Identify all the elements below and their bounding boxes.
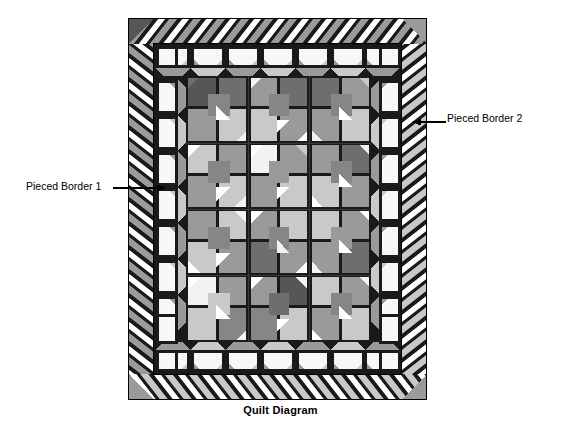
quilt-block [310, 275, 371, 342]
quilt-block [186, 209, 248, 275]
quilt-center-field [186, 76, 371, 342]
quilt-block [186, 275, 248, 342]
quilt-block [249, 275, 309, 342]
quilt-block [310, 143, 371, 209]
quilt-block [249, 143, 309, 209]
quilt-block [186, 76, 248, 143]
annotation-label-pieced-border-2: Pieced Border 2 [447, 112, 522, 124]
quilt-block [249, 209, 309, 275]
quilt-block [249, 76, 309, 143]
quilt-block [310, 76, 371, 143]
figure-caption: Quilt Diagram [0, 404, 561, 416]
figure-stage: Pieced Border 1 Pieced Border 2 Quilt Di… [0, 0, 561, 447]
quilt-block [310, 209, 371, 275]
quilt-block [186, 143, 248, 209]
quilt-diagram [0, 0, 561, 447]
annotation-label-pieced-border-1: Pieced Border 1 [26, 180, 101, 192]
